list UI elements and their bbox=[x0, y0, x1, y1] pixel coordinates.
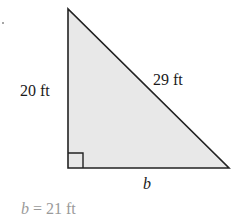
triangle-shape bbox=[68, 9, 229, 168]
right-triangle-figure bbox=[0, 0, 240, 223]
answer-value: 21 ft bbox=[46, 200, 76, 217]
height-label: 20 ft bbox=[20, 83, 50, 99]
diagram-canvas: 20 ft 29 ft b b = 21 ft bbox=[0, 0, 240, 223]
answer-text: b = 21 ft bbox=[21, 201, 76, 217]
answer-variable: b bbox=[21, 200, 29, 217]
base-label: b bbox=[143, 176, 151, 192]
answer-equals: = bbox=[29, 200, 46, 217]
hypotenuse-label: 29 ft bbox=[153, 72, 183, 88]
